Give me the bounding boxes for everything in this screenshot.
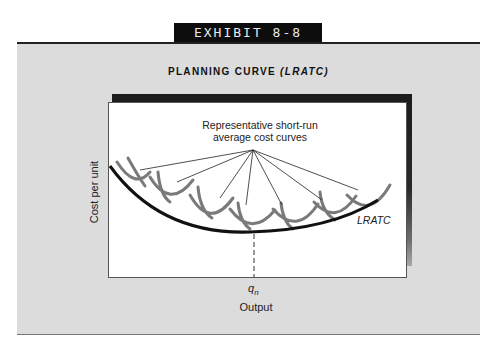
lratc-label: LRATC — [357, 214, 391, 226]
leader-lines — [140, 150, 358, 205]
sratc-curves — [117, 158, 390, 229]
x-axis-label: Output — [216, 301, 296, 313]
y-axis-label: Cost per unit — [88, 142, 100, 242]
qn-label: qn — [248, 282, 259, 297]
sratc-annotation: Representative short-run average cost cu… — [180, 119, 340, 143]
